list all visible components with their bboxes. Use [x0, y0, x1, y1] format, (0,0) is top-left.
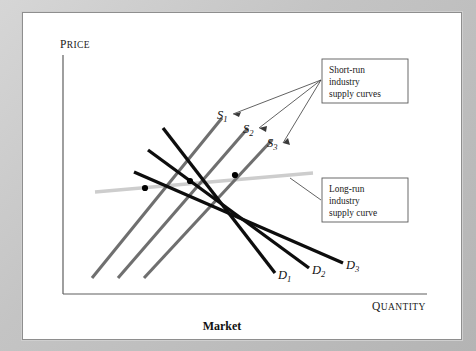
- short-run-supply-curves: [92, 118, 272, 278]
- equilibrium-point-2: [187, 178, 193, 184]
- callout-short-run-line-3: supply curves: [329, 89, 381, 99]
- demand-curve-labels: D1 D2 D3: [277, 258, 359, 284]
- leader-s2: [259, 80, 321, 128]
- equilibrium-point-3: [232, 172, 238, 178]
- label-s2: S2: [243, 122, 254, 138]
- demand-curves: [134, 128, 343, 273]
- label-s3: S3: [267, 136, 278, 152]
- label-d1: D1: [277, 268, 291, 284]
- label-d3: D3: [345, 258, 359, 274]
- demand-curve-d3: [134, 172, 343, 263]
- demand-curve-d2: [148, 150, 309, 268]
- market-supply-demand-chart: PRICE QUANTITY S1 S2 S3 D1 D2 D3: [22, 12, 462, 340]
- callout-long-run-line-3: supply curve: [329, 208, 377, 218]
- label-d2: D2: [311, 263, 326, 279]
- leader-lrs: [290, 178, 321, 200]
- callout-short-run: Short-run industry supply curves: [322, 59, 408, 103]
- figure-title: Market: [203, 319, 242, 333]
- equilibrium-point-1: [142, 185, 148, 191]
- supply-curve-s2: [118, 128, 248, 278]
- supply-curve-labels: S1 S2 S3: [217, 108, 278, 152]
- supply-curve-s1: [92, 118, 222, 278]
- leader-s1: [233, 80, 321, 114]
- long-run-leader-line: [290, 178, 321, 200]
- callout-short-run-line-2: industry: [329, 77, 360, 87]
- callout-long-run-line-1: Long-run: [329, 184, 365, 194]
- figure-page: PRICE QUANTITY S1 S2 S3 D1 D2 D3: [22, 12, 462, 340]
- label-s1: S1: [217, 108, 228, 124]
- x-axis-label: QUANTITY: [372, 300, 426, 312]
- leader-s3: [283, 80, 321, 143]
- y-axis-label: PRICE: [60, 38, 90, 50]
- screenshot-root: PRICE QUANTITY S1 S2 S3 D1 D2 D3: [0, 0, 476, 351]
- callout-short-run-line-1: Short-run: [329, 65, 365, 75]
- callout-long-run: Long-run industry supply curve: [322, 178, 408, 222]
- callout-long-run-line-2: industry: [329, 196, 360, 206]
